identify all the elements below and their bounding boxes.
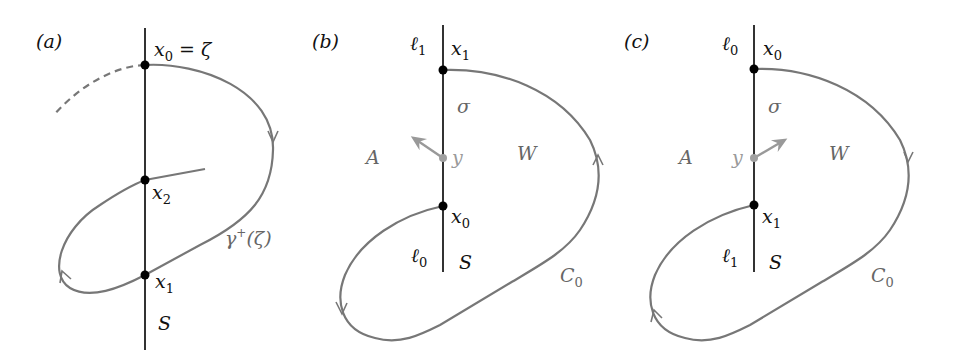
label-ell0: ℓ0 bbox=[411, 244, 427, 270]
label-x1: x1 bbox=[451, 37, 470, 63]
label-region-A: A bbox=[677, 146, 693, 168]
label-region-W: W bbox=[829, 142, 850, 164]
panel-c-label: (c) bbox=[624, 30, 649, 52]
label-x2: x2 bbox=[152, 181, 171, 207]
point-x1 bbox=[750, 201, 759, 210]
normal-arrow bbox=[754, 141, 783, 158]
point-x1 bbox=[141, 271, 150, 280]
label-y: y bbox=[451, 146, 463, 168]
point-y bbox=[439, 154, 447, 162]
panel-a: (a) x0 = ζ x2 x1 S γ+(ζ) bbox=[36, 28, 278, 350]
point-x0 bbox=[439, 202, 448, 211]
label-sigma: σ bbox=[768, 95, 782, 117]
label-x0: x0 = ζ bbox=[154, 38, 213, 64]
panel-a-label: (a) bbox=[36, 30, 62, 52]
label-ell0: ℓ0 bbox=[722, 32, 738, 58]
label-y: y bbox=[731, 146, 743, 168]
label-S: S bbox=[769, 251, 782, 273]
label-S: S bbox=[459, 251, 472, 273]
arrow-head-icon bbox=[904, 152, 913, 162]
point-x2 bbox=[141, 176, 150, 185]
label-x0: x0 bbox=[763, 37, 782, 63]
label-x1: x1 bbox=[155, 270, 174, 296]
label-S: S bbox=[158, 312, 171, 334]
point-x0 bbox=[750, 65, 759, 74]
label-gamma-plus-zeta: γ+(ζ) bbox=[225, 226, 272, 249]
panel-b-label: (b) bbox=[312, 30, 339, 52]
normal-arrow bbox=[415, 139, 443, 158]
panel-b: (b) ℓ1 x1 σ A y W x0 ℓ0 S C0 bbox=[312, 25, 603, 340]
label-C0: C0 bbox=[871, 264, 894, 290]
arrow-head-icon bbox=[60, 271, 71, 283]
label-C0: C0 bbox=[560, 264, 583, 290]
label-region-A: A bbox=[364, 146, 380, 168]
panel-c: (c) ℓ0 x0 σ A y W x1 ℓ1 S C0 bbox=[624, 25, 913, 340]
point-y bbox=[750, 154, 758, 162]
point-x0 bbox=[141, 61, 150, 70]
label-ell1: ℓ1 bbox=[410, 32, 426, 58]
label-x1: x1 bbox=[762, 205, 781, 231]
label-ell1: ℓ1 bbox=[722, 244, 738, 270]
point-x1 bbox=[439, 66, 448, 75]
figure-canvas: (a) x0 = ζ x2 x1 S γ+(ζ) (b) ℓ1 x1 σ A bbox=[0, 0, 957, 359]
curve-dashed-continuation bbox=[53, 65, 145, 116]
label-sigma: σ bbox=[457, 95, 471, 117]
label-x0: x0 bbox=[451, 205, 470, 231]
label-region-W: W bbox=[517, 142, 538, 164]
curve-gamma-plus bbox=[59, 65, 273, 293]
